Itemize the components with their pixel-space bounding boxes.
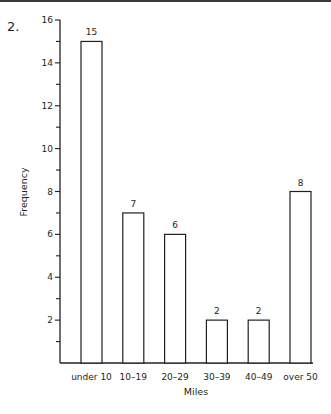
bar-value-label: 8 (298, 178, 304, 188)
x-category-label: under 10 (71, 372, 112, 382)
bar (81, 41, 102, 363)
y-tick-label: 4 (47, 272, 53, 282)
bar-chart: 246810121416 15under 10710–19620–29230–3… (0, 0, 331, 414)
bar (206, 320, 227, 363)
y-tick-label: 8 (47, 187, 53, 197)
bar (165, 234, 186, 363)
bar-group: 15under 10 (71, 27, 112, 382)
y-axis-title: Frequency (18, 167, 29, 216)
bar-group: 710–19 (120, 199, 148, 382)
bar-group: 230–39 (203, 306, 231, 382)
bar-group: 240–49 (245, 306, 273, 382)
x-category-label: 40–49 (245, 372, 273, 382)
y-tick-label: 16 (42, 15, 54, 25)
y-tick-label: 12 (42, 101, 53, 111)
y-tick-label: 10 (42, 144, 54, 154)
bar-value-label: 2 (214, 306, 220, 316)
bar-value-label: 15 (86, 27, 97, 37)
x-category-label: 30–39 (203, 372, 231, 382)
bar-value-label: 2 (256, 306, 262, 316)
bar-value-label: 6 (172, 220, 178, 230)
y-tick-label: 6 (47, 229, 53, 239)
bar-value-label: 7 (130, 199, 136, 209)
bar-group: 8over 50 (283, 178, 318, 383)
y-tick-label: 14 (42, 58, 54, 68)
y-axis: 246810121416 (42, 15, 60, 363)
x-category-label: 20–29 (161, 372, 189, 382)
y-tick-label: 2 (47, 315, 53, 325)
bar (290, 192, 311, 364)
x-category-label: over 50 (283, 372, 318, 382)
bar (248, 320, 269, 363)
bar (123, 213, 144, 363)
bars: 15under 10710–19620–29230–39240–498over … (71, 27, 318, 382)
x-axis-title: Miles (184, 386, 208, 397)
x-category-label: 10–19 (120, 372, 148, 382)
bar-group: 620–29 (161, 220, 189, 382)
